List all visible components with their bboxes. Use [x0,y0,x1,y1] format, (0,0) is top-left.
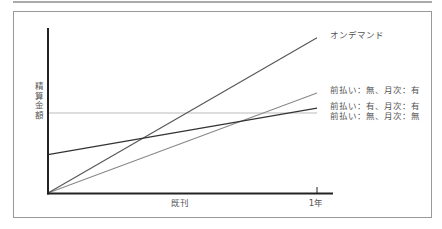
x-tick-label-1year: 1年 [309,198,323,208]
series-line-prepay-no-monthly-yes [48,93,317,193]
chart-canvas: 既刊 1年 オンデマンド 前払い：無、月次：有 前払い：有、月次：有 前払い：無… [0,0,442,229]
series-label-on-demand: オンデマンド [330,30,384,40]
x-axis-label: 既刊 [171,198,189,208]
series-label-prepay-no-monthly-no: 前払い：無、月次：無 [330,111,420,121]
y-axis-label: 精算金額 [33,82,43,120]
series-label-prepay-no-monthly-yes: 前払い：無、月次：有 [330,85,420,95]
series-label-prepay-yes-monthly-yes: 前払い：有、月次：有 [330,101,420,111]
series-lines [48,38,317,193]
